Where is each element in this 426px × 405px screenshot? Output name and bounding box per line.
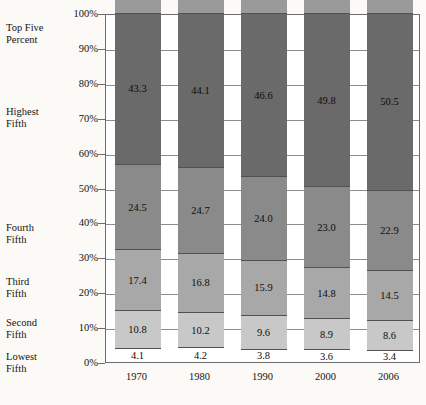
bar-segment-second-fifth-1980: 10.2 — [178, 312, 224, 348]
y-tick-mark — [98, 49, 105, 50]
bar-1980: 4.210.216.824.744.116.5 — [178, 15, 224, 362]
segment-value-label: 16.8 — [191, 277, 209, 288]
y-tick-label-100: 100% — [58, 9, 98, 20]
bar-segment-third-fifth-1990: 15.9 — [241, 260, 287, 315]
y-tick-mark — [98, 119, 105, 120]
y-tick-label-30: 30% — [58, 253, 98, 264]
segment-value-label: 22.9 — [380, 225, 398, 236]
y-tick-label-80: 80% — [58, 79, 98, 90]
y-tick-label-40: 40% — [58, 218, 98, 229]
bar-segment-third-fifth-1970: 17.4 — [115, 249, 161, 310]
segment-value-label: 8.6 — [383, 330, 396, 341]
segment-value-label: 46.6 — [254, 90, 272, 101]
y-tick-mark — [98, 363, 105, 364]
segment-value-label: 14.5 — [380, 290, 398, 301]
segment-value-label: 23.0 — [317, 222, 335, 233]
x-tick-label-2000: 2000 — [296, 371, 356, 382]
bar-segment-top-five-percent-1990: 18.5 — [241, 0, 287, 13]
segment-value-label: 3.4 — [383, 351, 396, 362]
bar-segment-lowest-fifth-2006: 3.4 — [367, 350, 413, 362]
bar-segment-third-fifth-2006: 14.5 — [367, 270, 413, 321]
y-tick-mark — [98, 189, 105, 190]
bar-segment-fourth-fifth-1990: 24.0 — [241, 176, 287, 260]
segment-value-label: 49.8 — [317, 95, 335, 106]
y-tick-label-20: 20% — [58, 288, 98, 299]
bar-segment-highest-fifth-1990: 46.6 — [241, 13, 287, 176]
segment-value-label: 50.5 — [380, 96, 398, 107]
y-tick-label-90: 90% — [58, 44, 98, 55]
y-tick-label-60: 60% — [58, 149, 98, 160]
bar-segment-lowest-fifth-1970: 4.1 — [115, 348, 161, 362]
bar-segment-fourth-fifth-2000: 23.0 — [304, 186, 350, 266]
bar-segment-fourth-fifth-2006: 22.9 — [367, 190, 413, 270]
x-tick-label-1980: 1980 — [170, 371, 230, 382]
bar-segment-third-fifth-1980: 16.8 — [178, 253, 224, 312]
y-tick-mark — [98, 328, 105, 329]
segment-value-label: 10.8 — [128, 324, 146, 335]
segment-value-label: 3.6 — [320, 351, 333, 362]
bar-segment-lowest-fifth-2000: 3.6 — [304, 349, 350, 362]
bar-segment-lowest-fifth-1990: 3.8 — [241, 349, 287, 362]
y-tick-label-70: 70% — [58, 114, 98, 125]
bar-segment-third-fifth-2000: 14.8 — [304, 267, 350, 319]
segment-value-label: 10.2 — [191, 325, 209, 336]
y-tick-mark — [98, 258, 105, 259]
segment-value-label: 24.0 — [254, 213, 272, 224]
bar-segment-fourth-fifth-1970: 24.5 — [115, 164, 161, 250]
bar-segment-highest-fifth-1980: 44.1 — [178, 13, 224, 167]
bar-segment-top-five-percent-1980: 16.5 — [178, 0, 224, 13]
bar-segment-highest-fifth-1970: 43.3 — [115, 13, 161, 164]
y-axis: 0%10%20%30%40%50%60%70%80%90%100% — [50, 0, 98, 405]
segment-value-label: 8.9 — [320, 329, 333, 340]
x-tick-label-1970: 1970 — [107, 371, 167, 382]
bar-segment-top-five-percent-2006: 22.3 — [367, 0, 413, 13]
bar-segment-lowest-fifth-1980: 4.2 — [178, 347, 224, 362]
y-tick-mark — [98, 293, 105, 294]
segment-value-label: 44.1 — [191, 85, 209, 96]
bar-segment-highest-fifth-2000: 49.8 — [304, 13, 350, 187]
bar-segment-second-fifth-2006: 8.6 — [367, 320, 413, 350]
segment-value-label: 15.9 — [254, 282, 272, 293]
bar-segment-fourth-fifth-1980: 24.7 — [178, 167, 224, 253]
bar-segment-top-five-percent-1970: 16.6 — [115, 0, 161, 13]
y-tick-mark — [98, 154, 105, 155]
plot-area: 4.110.817.424.543.316.64.210.216.824.744… — [105, 14, 420, 363]
bar-2000: 3.68.914.823.049.822.1 — [304, 15, 350, 362]
stacked-bar-chart: Top Five PercentHighest FifthFourth Fift… — [0, 0, 426, 405]
bar-1990: 3.89.615.924.046.618.5 — [241, 15, 287, 362]
bar-segment-second-fifth-1970: 10.8 — [115, 310, 161, 348]
y-tick-label-50: 50% — [58, 184, 98, 195]
y-tick-mark — [98, 84, 105, 85]
segment-value-label: 24.7 — [191, 205, 209, 216]
x-tick-label-2006: 2006 — [359, 371, 419, 382]
bar-2006: 3.48.614.522.950.522.3 — [367, 15, 413, 362]
y-tick-mark — [98, 14, 105, 15]
segment-value-label: 24.5 — [128, 202, 146, 213]
y-tick-mark — [98, 223, 105, 224]
segment-value-label: 43.3 — [128, 83, 146, 94]
segment-value-label: 17.4 — [128, 275, 146, 286]
bar-segment-highest-fifth-2006: 50.5 — [367, 13, 413, 189]
bar-1970: 4.110.817.424.543.316.6 — [115, 15, 161, 362]
segment-value-label: 4.2 — [194, 350, 207, 361]
bar-segment-top-five-percent-2000: 22.1 — [304, 0, 350, 13]
segment-value-label: 3.8 — [257, 350, 270, 361]
y-tick-label-10: 10% — [58, 323, 98, 334]
segment-value-label: 9.6 — [257, 327, 270, 338]
x-tick-label-1990: 1990 — [233, 371, 293, 382]
y-tick-label-0: 0% — [58, 358, 98, 369]
segment-value-label: 4.1 — [131, 350, 144, 361]
bar-segment-second-fifth-1990: 9.6 — [241, 315, 287, 349]
bar-segment-second-fifth-2000: 8.9 — [304, 318, 350, 349]
segment-value-label: 14.8 — [317, 288, 335, 299]
